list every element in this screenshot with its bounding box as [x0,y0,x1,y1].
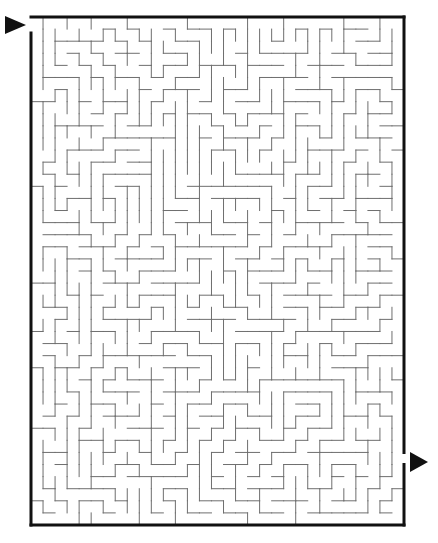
maze-walls [31,17,404,525]
finish-arrow-icon [410,452,428,472]
maze-board[interactable] [0,0,438,543]
start-arrow-icon [5,16,26,34]
